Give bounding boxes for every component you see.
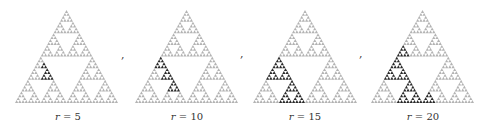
label-r20: r = 20 — [400, 111, 446, 122]
label-r15: r = 15 — [282, 111, 328, 122]
sierpinski-triangle-r20 — [0, 0, 489, 110]
label-r5: r = 5 — [48, 111, 88, 122]
label-r10: r = 10 — [164, 111, 210, 122]
